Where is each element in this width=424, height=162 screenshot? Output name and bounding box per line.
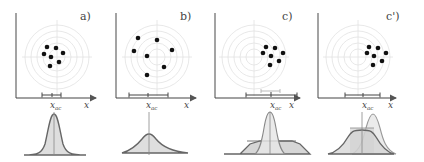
svg-text:xac: xac xyxy=(50,100,61,111)
gaussian-curve-narrow xyxy=(255,112,285,155)
panel-label: c) xyxy=(282,10,292,23)
data-points xyxy=(132,36,175,78)
panel-label: b) xyxy=(180,10,191,23)
gaussian-curve xyxy=(122,112,188,155)
gaussian-curve-wide xyxy=(328,112,394,155)
panel-label: a) xyxy=(80,10,91,23)
panel-label: c') xyxy=(386,10,399,23)
svg-text:xac: xac xyxy=(270,100,281,111)
panel-a: a) xac x xyxy=(16,10,96,155)
svg-text:xac: xac xyxy=(146,100,157,111)
svg-text:xac: xac xyxy=(362,100,373,111)
svg-text:x: x xyxy=(84,100,89,110)
interval-bar xyxy=(42,93,61,98)
svg-text:x: x xyxy=(184,100,189,110)
panel-b: b) xac x xyxy=(116,10,196,155)
svg-text:x: x xyxy=(289,100,294,110)
svg-text:x: x xyxy=(388,100,393,110)
panel-c: c) xac x xyxy=(215,10,310,155)
gaussian-curve xyxy=(24,112,86,155)
accuracy-precision-diagram: a) xac x b) xac x xyxy=(0,0,424,162)
interval-bar xyxy=(129,93,168,98)
panel-c-prime: c') xac x xyxy=(318,10,399,155)
interval-bar xyxy=(345,93,380,98)
